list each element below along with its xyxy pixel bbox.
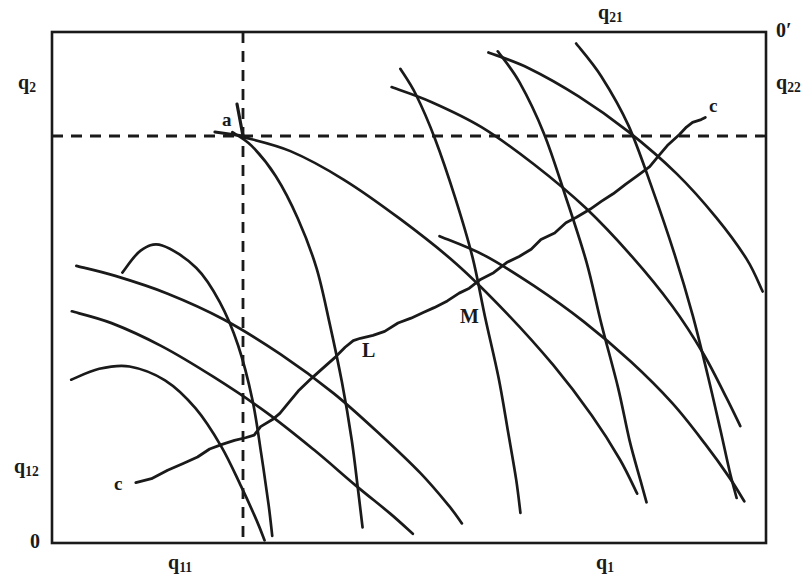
axis-label-q21: q21 (598, 2, 623, 22)
axis-label-q2: q2 (18, 72, 36, 92)
point-label-M: M (460, 306, 479, 326)
agent1-indifference-curve-1 (122, 244, 272, 536)
agent2-indifference-curve-4 (392, 87, 741, 426)
contract-curve (136, 117, 705, 482)
origin-label-left: 0 (30, 531, 40, 551)
origin-label-right: 0′ (776, 20, 792, 40)
agent2-indifference-curve-2 (76, 266, 462, 523)
axis-label-q22: q22 (776, 72, 801, 92)
axis-label-q12: q12 (14, 456, 39, 476)
edgeworth-box-figure: q2 q12 0 q11 q1 q21 0′ q22 a L M c c (0, 0, 809, 577)
contract-curve-label-start: c (114, 474, 122, 493)
contract-curve-label-end: c (709, 96, 717, 115)
axis-label-q1: q1 (596, 552, 614, 572)
point-label-a: a (222, 110, 232, 129)
axis-label-q11: q11 (168, 552, 192, 572)
point-label-L: L (362, 340, 375, 360)
agent2-indifference-curve-6 (488, 52, 762, 291)
agent1-indifference-curve-3 (232, 132, 362, 527)
endowment-arrow-horizontal (215, 132, 243, 136)
